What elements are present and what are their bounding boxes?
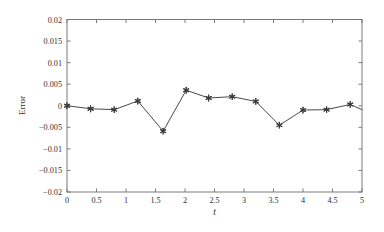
x-tick-label: 4 [301, 196, 305, 205]
x-tick-label: 4.5 [327, 196, 337, 205]
x-tick-label: 0 [65, 196, 69, 205]
x-tick-label: 1 [124, 196, 128, 205]
x-tick-label: 2.5 [209, 196, 219, 205]
x-tick-label: 0.5 [91, 196, 101, 205]
y-tick-label: 0.02 [48, 16, 62, 25]
y-axis-label: Error [17, 96, 27, 115]
y-tick-label: 0.015 [44, 37, 62, 46]
x-axis-label: t [213, 207, 216, 217]
x-tick-label: 3.5 [268, 196, 278, 205]
y-tick-label: 0 [58, 102, 62, 111]
error-plot-figure: 00.511.522.533.544.55 0.020.0150.010.005… [0, 0, 384, 232]
y-tick-label: 0.01 [48, 59, 62, 68]
x-tick-label: 2 [183, 196, 187, 205]
x-tick-label: 3 [242, 196, 246, 205]
y-tick-label: −0.02 [43, 188, 62, 197]
y-tick-label: 0.005 [44, 80, 62, 89]
y-tick-label: −0.01 [43, 145, 62, 154]
x-tick-label: 5 [360, 196, 364, 205]
y-tick-label: −0.005 [39, 123, 62, 132]
chart-canvas: 00.511.522.533.544.55 0.020.0150.010.005… [0, 0, 384, 232]
x-tick-label: 1.5 [150, 196, 160, 205]
y-tick-label: −0.015 [39, 166, 62, 175]
